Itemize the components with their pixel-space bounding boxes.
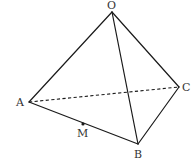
edge-OA [29, 12, 112, 102]
tetrahedron-diagram: O A B C M [0, 0, 192, 163]
vertex-label-O: O [107, 0, 116, 12]
edge-BC [138, 87, 179, 144]
vertex-label-B: B [134, 148, 142, 161]
vertex-label-C: C [182, 81, 190, 94]
edges-group [29, 12, 179, 144]
vertex-label-A: A [15, 96, 25, 109]
point-M-dot [81, 122, 84, 125]
point-label-M: M [77, 127, 88, 140]
edge-OB [112, 12, 138, 144]
labels-group: O A B C M [15, 0, 190, 161]
edge-AC-hidden [29, 87, 179, 102]
edge-OC [112, 12, 179, 87]
